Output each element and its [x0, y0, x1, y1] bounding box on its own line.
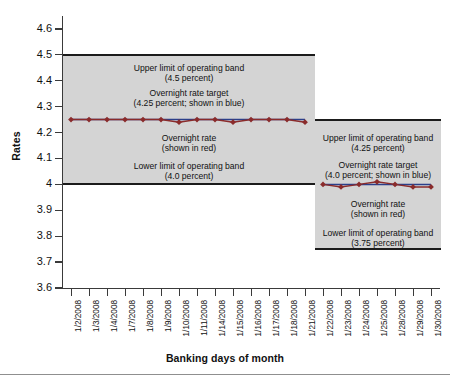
x-tick	[251, 288, 252, 296]
x-tick	[359, 288, 360, 296]
x-tick	[197, 288, 198, 296]
y-tick-label: 3.9	[6, 204, 52, 215]
right-band-rate-label-line-2: (shown in red)	[268, 209, 450, 219]
right-band-upper-label-line-1: Upper limit of operating band	[268, 133, 450, 143]
x-tick-label: 1/28/2008	[399, 300, 407, 336]
x-tick	[395, 288, 396, 296]
right-band-rate-label-line-1: Overnight rate	[268, 199, 450, 209]
x-tick-label: 1/7/2008	[129, 300, 137, 332]
x-tick-label: 1/8/2008	[147, 300, 155, 332]
x-tick-label: 1/9/2008	[165, 300, 173, 332]
x-tick-label: 1/10/2008	[183, 300, 191, 336]
y-tick-label: 4.4	[6, 75, 52, 86]
y-axis-title: Rates	[10, 116, 22, 176]
left-band-target-label-line-1: Overnight rate target	[79, 88, 299, 98]
x-tick-label: 1/24/2008	[363, 300, 371, 336]
band-upper-limit-line	[63, 54, 315, 56]
band-upper-limit-line	[315, 119, 441, 121]
right-band-lower-label-line-2: (3.75 percent)	[268, 238, 450, 248]
x-tick-label: 1/15/2008	[237, 300, 245, 336]
x-tick-label: 1/29/2008	[417, 300, 425, 336]
x-tick-label: 1/23/2008	[345, 300, 353, 336]
x-tick	[431, 288, 432, 296]
x-tick	[125, 288, 126, 296]
x-tick-label: 1/2/2008	[75, 300, 83, 332]
y-tick-label: 4.5	[6, 49, 52, 60]
x-tick-label: 1/30/2008	[435, 300, 443, 336]
x-tick	[341, 288, 342, 296]
x-tick-label: 1/25/2008	[381, 300, 389, 336]
left-band-lower-label-line-2: (4.0 percent)	[79, 171, 299, 181]
x-tick	[269, 288, 270, 296]
y-tick	[55, 236, 63, 237]
left-band-rate-label-line-1: Overnight rate	[79, 133, 299, 143]
right-band-upper-label-line-2: (4.25 percent)	[268, 143, 450, 153]
x-tick	[179, 288, 180, 296]
x-tick-label: 1/22/2008	[327, 300, 335, 336]
right-band-lower-label-line-1: Lower limit of operating band	[268, 228, 450, 238]
x-tick-label: 1/16/2008	[255, 300, 263, 336]
left-band-target-label-line-2: (4.25 percent; shown in blue)	[79, 98, 299, 108]
x-tick-label: 1/17/2008	[273, 300, 281, 336]
x-tick	[377, 288, 378, 296]
x-tick	[71, 288, 72, 296]
y-tick	[55, 158, 63, 159]
y-tick	[55, 184, 63, 185]
x-tick	[287, 288, 288, 296]
y-tick	[55, 261, 63, 262]
x-tick	[323, 288, 324, 296]
y-tick-label: 3.6	[6, 282, 52, 293]
y-tick-label: 3.7	[6, 256, 52, 267]
x-tick	[215, 288, 216, 296]
left-band-upper-label-line-1: Upper limit of operating band	[79, 63, 299, 73]
x-tick	[89, 288, 90, 296]
x-tick	[233, 288, 234, 296]
left-band-upper-label-line-2: (4.5 percent)	[79, 73, 299, 83]
x-tick	[413, 288, 414, 296]
x-tick	[305, 288, 306, 296]
right-band-target-label-line-2: (4.0 percent; shown in blue)	[268, 170, 450, 180]
y-tick	[55, 28, 63, 29]
x-axis-title: Banking days of month	[0, 352, 450, 364]
x-tick	[161, 288, 162, 296]
y-tick	[55, 132, 63, 133]
x-tick	[107, 288, 108, 296]
y-tick	[55, 287, 63, 288]
x-tick-label: 1/21/2008	[309, 300, 317, 336]
x-tick-label: 1/3/2008	[93, 300, 101, 332]
y-tick-label: 4	[6, 178, 52, 189]
left-band-rate-label-line-2: (shown in red)	[79, 143, 299, 153]
y-tick-label: 4.3	[6, 101, 52, 112]
y-tick	[55, 106, 63, 107]
x-tick-label: 1/4/2008	[111, 300, 119, 332]
rates-chart: Rates 3.63.73.83.944.14.24.34.44.54.6 Up…	[0, 0, 450, 384]
x-tick-label: 1/14/2008	[219, 300, 227, 336]
y-tick-label: 3.8	[6, 230, 52, 241]
y-tick-label: 4.2	[6, 127, 52, 138]
band-lower-limit-line	[63, 183, 315, 185]
y-tick	[55, 54, 63, 55]
left-band-lower-label-line-1: Lower limit of operating band	[79, 161, 299, 171]
x-tick-label: 1/11/2008	[201, 300, 209, 336]
y-tick	[55, 210, 63, 211]
y-tick	[55, 80, 63, 81]
y-tick-label: 4.1	[6, 152, 52, 163]
y-tick-label: 4.6	[6, 23, 52, 34]
x-tick	[143, 288, 144, 296]
x-tick-label: 1/18/2008	[291, 300, 299, 336]
footer-rule	[0, 374, 450, 375]
right-band-target-label-line-1: Overnight rate target	[268, 160, 450, 170]
